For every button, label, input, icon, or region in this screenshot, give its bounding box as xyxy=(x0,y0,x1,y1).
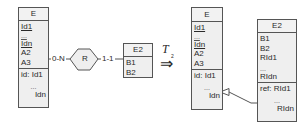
entity-e-left: E Id1 ... Idn A2 A3 id: Id1 ... Idn xyxy=(18,7,49,108)
attribute-b2: B2 xyxy=(260,44,294,54)
cardinality-e: 0-N xyxy=(51,54,66,64)
attribute-b1: B1 xyxy=(126,58,150,68)
identifier-ellipsis: ... xyxy=(194,81,220,91)
attribute-ellipsis: ... xyxy=(21,32,46,39)
attribute-a3: A3 xyxy=(21,58,46,68)
identifier-ellipsis: ... xyxy=(21,80,46,90)
reference-label: ref: RId1 xyxy=(260,84,294,94)
reference-section: ref: RId1 ... RIdn xyxy=(258,82,296,114)
attribute-ellipsis: ... xyxy=(260,63,294,72)
attribute-ridn: RIdn xyxy=(260,72,294,82)
cardinality-e2: 1-1 xyxy=(101,54,115,64)
attribute-idn: Idn xyxy=(21,39,46,49)
identifier-label: id: Id1 xyxy=(21,70,46,80)
attributes: Id1 ... Idn A2 A3 xyxy=(19,21,48,68)
identifier-last: Idn xyxy=(21,90,46,100)
reference-last: RIdn xyxy=(260,104,294,114)
entity-e2-left: E2 B1 B2 xyxy=(123,43,153,78)
double-arrow-icon: ⇒ xyxy=(160,56,173,72)
attribute-idn: Idn xyxy=(194,40,220,50)
identifier-section: id: Id1 ... Idn xyxy=(19,68,48,100)
reference-ellipsis: ... xyxy=(260,94,294,104)
attribute-b1: B1 xyxy=(260,34,294,44)
entity-name: E xyxy=(19,8,48,21)
attribute-rid1: RId1 xyxy=(260,53,294,63)
attribute-a3: A3 xyxy=(194,59,220,69)
identifier-label: id: Id1 xyxy=(194,71,220,81)
attribute-a2: A2 xyxy=(194,49,220,59)
attributes: B1 B2 RId1 ... RIdn xyxy=(258,33,296,82)
attributes: Id1 ... Idn A2 A3 xyxy=(192,22,222,69)
attribute-b2: B2 xyxy=(126,68,150,78)
entity-name: E2 xyxy=(124,44,152,57)
relationship-name: R xyxy=(81,54,89,64)
attribute-ellipsis: ... xyxy=(194,33,220,40)
entity-name: E2 xyxy=(258,20,296,33)
attributes: B1 B2 xyxy=(124,57,152,78)
identifier-section: id: Id1 ... Idn xyxy=(192,69,222,101)
entity-e-right: E Id1 ... Idn A2 A3 id: Id1 ... Idn xyxy=(191,7,223,110)
identifier-last: Idn xyxy=(194,91,220,101)
attribute-a2: A2 xyxy=(21,48,46,58)
entity-e2-right: E2 B1 B2 RId1 ... RIdn ref: RId1 ... RId… xyxy=(257,19,297,122)
attribute-id1: Id1 xyxy=(21,22,46,32)
entity-name: E xyxy=(192,8,222,22)
attribute-id1: Id1 xyxy=(194,23,220,33)
